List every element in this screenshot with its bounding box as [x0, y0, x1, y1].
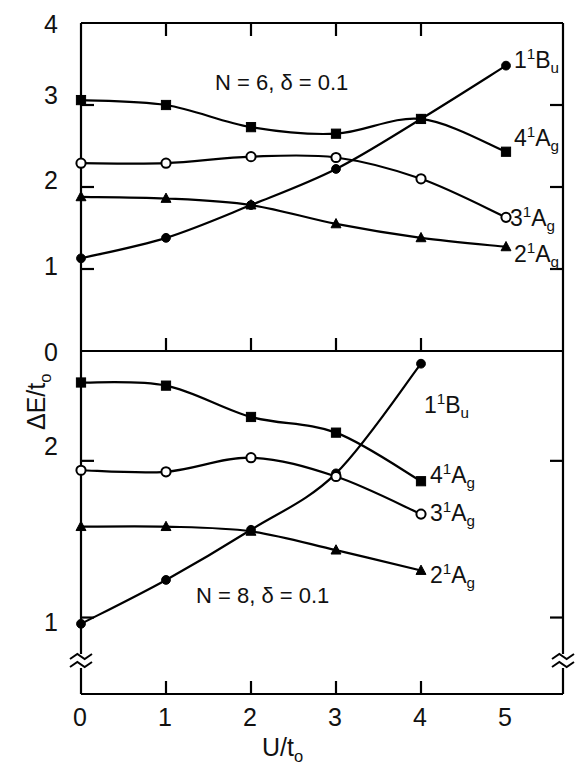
label-base: 1 — [424, 392, 437, 418]
label-sub: g — [551, 253, 559, 270]
label-sup: 1 — [523, 203, 531, 220]
label-sub: g — [551, 137, 559, 154]
y-axis-title: ΔE/to — [22, 374, 55, 430]
x-axis-title-sub: o — [294, 747, 303, 765]
lower-series-label-4a1g: 41Ag — [430, 460, 475, 491]
label-base: 4 — [514, 125, 527, 151]
lower-series-label-1b1u: 11Bu — [424, 390, 469, 421]
upper-series-label-3a1g: 31Ag — [510, 203, 555, 234]
plot-canvas — [0, 0, 578, 766]
label-base: 2 — [430, 562, 443, 588]
lower-ytick-2: 2 — [44, 432, 58, 461]
label-rest: A — [531, 205, 546, 231]
xtick-1: 1 — [158, 703, 172, 732]
label-sup: 1 — [527, 45, 535, 62]
upper-ytick-3: 3 — [44, 81, 58, 110]
label-sub: g — [467, 574, 475, 591]
figure-container: 4 3 2 1 0 2 1 0 1 2 3 4 5 U/to ΔE/to N =… — [0, 0, 578, 766]
label-rest: A — [451, 500, 466, 526]
right-axis-break — [552, 654, 574, 668]
label-base: 4 — [430, 462, 443, 488]
lower-series-label-2a1g: 21Ag — [430, 560, 475, 591]
x-axis-title: U/to — [262, 733, 303, 766]
upper-ytick-2: 2 — [44, 166, 58, 195]
upper-series-label-4a1g: 41Ag — [514, 123, 559, 154]
xtick-3: 3 — [328, 703, 342, 732]
xtick-4: 4 — [413, 703, 427, 732]
label-sub: g — [467, 474, 475, 491]
x-axis-title-main: U/t — [262, 733, 294, 761]
left-axis-break — [70, 654, 92, 668]
lower-series-label-3a1g: 31Ag — [430, 498, 475, 529]
label-sup: 1 — [443, 560, 451, 577]
upper-ytick-4: 4 — [44, 10, 58, 39]
label-sup: 1 — [437, 390, 445, 407]
label-sub: g — [547, 217, 555, 234]
lower-panel-series-3 — [76, 453, 425, 519]
xtick-5: 5 — [498, 703, 512, 732]
label-base: 2 — [514, 241, 527, 267]
upper-series-label-1b1u: 11Bu — [514, 45, 559, 76]
y-axis-title-main: ΔE/t — [22, 383, 50, 430]
label-sub: u — [551, 59, 559, 76]
label-base: 1 — [514, 47, 527, 73]
label-rest: B — [445, 392, 460, 418]
lower-panel-series-2 — [76, 378, 425, 486]
xtick-2: 2 — [243, 703, 257, 732]
lower-panel-condition: N = 8, δ = 0.1 — [196, 583, 329, 609]
xtick-0: 0 — [73, 703, 87, 732]
upper-ytick-1: 1 — [44, 252, 58, 281]
label-rest: A — [451, 562, 466, 588]
label-rest: A — [535, 125, 550, 151]
label-rest: B — [535, 47, 550, 73]
label-sup: 1 — [527, 123, 535, 140]
lower-panel-series-4 — [76, 521, 426, 574]
lower-ytick-1: 1 — [44, 608, 58, 637]
label-base: 3 — [430, 500, 443, 526]
label-base: 3 — [510, 205, 523, 231]
label-sub: g — [467, 512, 475, 529]
label-sup: 1 — [443, 498, 451, 515]
label-rest: A — [535, 241, 550, 267]
upper-series-label-2a1g: 21Ag — [514, 239, 559, 270]
y-axis-title-sub: o — [36, 374, 54, 383]
label-sub: u — [461, 404, 469, 421]
upper-panel-condition: N = 6, δ = 0.1 — [215, 70, 348, 96]
upper-panel-series-4 — [76, 191, 511, 250]
label-sup: 1 — [527, 239, 535, 256]
label-rest: A — [451, 462, 466, 488]
label-sup: 1 — [443, 460, 451, 477]
upper-ytick-0: 0 — [44, 338, 58, 367]
